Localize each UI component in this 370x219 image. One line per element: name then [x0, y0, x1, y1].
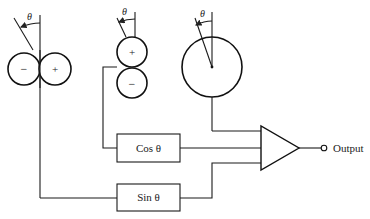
sensor1-angle-arc: [21, 23, 40, 27]
sensor2-to-cos-wire: [103, 67, 117, 148]
sensor3-angle-ray: [195, 18, 212, 67]
output-label: Output: [333, 142, 364, 154]
sensor3-theta-label: θ: [200, 8, 205, 19]
sensor-omnidirectional: θ: [182, 8, 261, 131]
sensor3-angle-arc: [196, 21, 212, 25]
sin-block: Sin θ: [117, 163, 261, 211]
minus-sign-bottom: −: [129, 77, 136, 91]
plus-sign: +: [52, 63, 58, 75]
diagram-canvas: θ − + θ + − θ Cos θ Sin: [0, 0, 370, 219]
cos-block: Cos θ: [117, 134, 261, 162]
sin-to-amp-wire: [180, 163, 261, 198]
sensor2-theta-label: θ: [122, 6, 127, 17]
sensor-figure-eight-vertical: θ + −: [117, 6, 147, 98]
sensor1-theta-label: θ: [27, 11, 32, 22]
summing-amplifier: Output: [261, 126, 364, 170]
sensor2-angle-arc: [119, 19, 135, 22]
amplifier-triangle: [261, 126, 299, 170]
sin-block-label: Sin θ: [137, 191, 160, 203]
sensor1-angle-ray: [14, 18, 33, 50]
minus-sign: −: [21, 62, 28, 76]
plus-sign-top: +: [129, 46, 135, 58]
sensor-figure-eight-horizontal: θ − +: [8, 11, 71, 198]
output-terminal: [321, 145, 327, 151]
omni-center-dot: [211, 66, 214, 69]
cos-block-label: Cos θ: [136, 142, 161, 154]
diagram-svg: θ − + θ + − θ Cos θ Sin: [0, 0, 370, 219]
